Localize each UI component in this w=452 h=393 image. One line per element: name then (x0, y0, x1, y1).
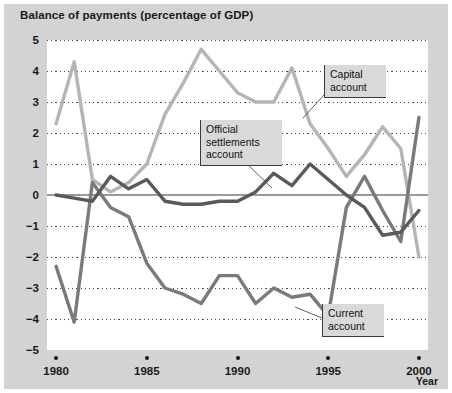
x-axis-tick-label: 1980 (43, 365, 69, 377)
annotation-current-account: Current account (322, 304, 384, 337)
annotation-official-settlements-account: Official settlements account (200, 120, 282, 166)
annotation-capital-account: Capital account (324, 65, 386, 98)
x-axis-tick-marker (417, 356, 421, 360)
x-axis-tick-label: 1995 (315, 365, 341, 377)
y-axis-tick-label: 5 (11, 34, 39, 46)
y-axis-tick-label: 1 (11, 158, 39, 170)
y-axis-tick-label: 2 (11, 127, 39, 139)
y-axis-tick-label: −5 (11, 344, 39, 356)
x-axis-tick-marker (326, 356, 330, 360)
y-axis-tick-label: −1 (11, 220, 39, 232)
x-axis-tick-label: 1985 (134, 365, 160, 377)
x-axis-tick-label: 1990 (225, 365, 251, 377)
y-axis-tick-label: 3 (11, 96, 39, 108)
y-axis-tick-label: −3 (11, 282, 39, 294)
x-axis-tick-marker (236, 356, 240, 360)
series-line-official-settlements-account (56, 164, 419, 235)
y-axis-tick-label: −2 (11, 251, 39, 263)
x-axis-title: Year (416, 375, 438, 387)
chart-figure: Balance of payments (percentage of GDP) … (0, 0, 452, 393)
x-axis-tick-marker (145, 356, 149, 360)
y-axis-tick-label: −4 (11, 313, 39, 325)
x-axis-tick-marker (54, 356, 58, 360)
y-axis-tick-label: 4 (11, 65, 39, 77)
y-axis-tick-label: 0 (11, 189, 39, 201)
chart-title: Balance of payments (percentage of GDP) (20, 9, 253, 21)
